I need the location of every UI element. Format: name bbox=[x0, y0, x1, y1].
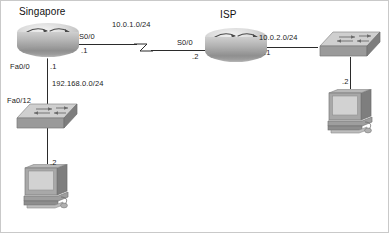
label-isp-serial-address: .2 bbox=[192, 53, 198, 61]
link-singapore-to-left-switch bbox=[47, 58, 48, 106]
label-right-pc-address: .2 bbox=[342, 78, 348, 86]
link-right-switch-to-right-pc bbox=[350, 57, 351, 89]
label-singapore-router-name: Singapore bbox=[19, 7, 66, 17]
label-left-pc-address: .2 bbox=[50, 159, 56, 167]
label-singapore-fastethernet-interface: Fa0/0 bbox=[10, 63, 30, 71]
label-singapore-serial-interface: S0/0 bbox=[79, 33, 95, 41]
pc-left[interactable] bbox=[23, 164, 75, 212]
label-singapore-serial-address: .1 bbox=[81, 47, 87, 55]
switch-left[interactable] bbox=[16, 101, 78, 133]
router-rim bbox=[205, 50, 267, 64]
link-serial-cloud-to-isp bbox=[151, 50, 213, 51]
switch-right[interactable] bbox=[319, 29, 381, 61]
pc-right[interactable] bbox=[327, 89, 379, 137]
router-isp[interactable] bbox=[205, 28, 267, 68]
link-singapore-to-serial-cloud bbox=[78, 44, 137, 45]
label-isp-lan-network: 10.0.2.0/24 bbox=[259, 34, 298, 42]
switch-icon bbox=[16, 101, 78, 133]
pc-icon bbox=[23, 164, 79, 214]
label-singapore-fastethernet-address: .1 bbox=[50, 63, 56, 71]
label-isp-router-name: ISP bbox=[220, 10, 236, 20]
link-isp-to-right-switch bbox=[266, 47, 318, 48]
label-left-switch-port: Fa0/12 bbox=[7, 97, 31, 105]
router-singapore[interactable] bbox=[17, 23, 79, 63]
link-left-switch-to-left-pc bbox=[47, 128, 48, 164]
router-rim bbox=[17, 45, 79, 59]
label-isp-serial-interface: S0/0 bbox=[177, 39, 193, 47]
network-diagram: Singapore ISP S0/0 .1 10.0.1.0/24 S0/0 .… bbox=[0, 0, 389, 233]
label-serial-wan-network: 10.0.1.0/24 bbox=[112, 21, 151, 29]
pc-icon bbox=[327, 89, 383, 139]
switch-icon bbox=[319, 29, 381, 61]
label-isp-lan-address: .1 bbox=[264, 49, 270, 57]
label-singapore-lan-network: 192.168.0.0/24 bbox=[52, 80, 103, 88]
